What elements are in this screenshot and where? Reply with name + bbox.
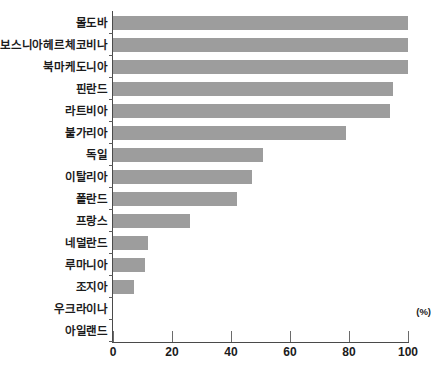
x-axis-tick	[172, 331, 173, 342]
chart-row: 폴란드	[113, 188, 408, 210]
x-axis-tick-label: 20	[149, 345, 195, 359]
chart-row: 불가리아	[113, 122, 408, 144]
bar	[113, 258, 145, 272]
bar	[113, 126, 346, 140]
plot-area: 몰도바보스니아헤르체코비나북마케도니아핀란드라트비아불가리아독일이탈리아폴란드프…	[113, 12, 408, 342]
chart-row: 북마케도니아	[113, 56, 408, 78]
bar	[113, 16, 408, 30]
category-label: 몰도바	[76, 12, 108, 34]
x-axis-tick	[290, 331, 291, 342]
category-label: 네덜란드	[65, 232, 108, 254]
x-axis-tick	[408, 331, 409, 342]
category-label: 이탈리아	[65, 166, 108, 188]
bar	[113, 104, 390, 118]
x-axis-tick-label: 0	[90, 345, 136, 359]
category-label: 프랑스	[76, 210, 108, 232]
category-label: 불가리아	[65, 122, 108, 144]
bar	[113, 38, 408, 52]
category-label: 조지아	[76, 276, 108, 298]
bar	[113, 214, 190, 228]
x-axis-line	[112, 342, 409, 343]
chart-row: 조지아	[113, 276, 408, 298]
category-label: 라트비아	[65, 100, 108, 122]
chart-row: 몰도바	[113, 12, 408, 34]
chart-row: 보스니아헤르체코비나	[113, 34, 408, 56]
bar	[113, 60, 408, 74]
bar	[113, 236, 148, 250]
chart-row: 독일	[113, 144, 408, 166]
chart-row: 이탈리아	[113, 166, 408, 188]
chart-row: 아일랜드	[113, 320, 408, 342]
chart-row: 핀란드	[113, 78, 408, 100]
category-label: 우크라이나	[54, 298, 108, 320]
category-label: 북마케도니아	[43, 56, 108, 78]
chart-row: 네덜란드	[113, 232, 408, 254]
category-label: 폴란드	[76, 188, 108, 210]
bar-chart-figure: 몰도바보스니아헤르체코비나북마케도니아핀란드라트비아불가리아독일이탈리아폴란드프…	[0, 0, 431, 391]
bar	[113, 170, 252, 184]
x-axis-tick-label: 100	[385, 345, 431, 359]
bar	[113, 82, 393, 96]
x-axis-unit-label: (%)	[416, 306, 431, 317]
x-axis-tick	[113, 331, 114, 342]
category-label: 아일랜드	[65, 320, 108, 342]
chart-row: 라트비아	[113, 100, 408, 122]
bar	[113, 148, 263, 162]
chart-row: 루마니아	[113, 254, 408, 276]
category-label: 루마니아	[65, 254, 108, 276]
category-label: 핀란드	[76, 78, 108, 100]
x-axis-tick-label: 60	[267, 345, 313, 359]
x-axis-tick-label: 80	[326, 345, 372, 359]
bar	[113, 192, 237, 206]
category-label: 독일	[86, 144, 108, 166]
category-label: 보스니아헤르체코비나	[0, 34, 108, 56]
x-axis-tick-label: 40	[208, 345, 254, 359]
x-axis-tick	[231, 331, 232, 342]
bar	[113, 280, 134, 294]
chart-row: 프랑스	[113, 210, 408, 232]
x-axis-tick	[349, 331, 350, 342]
chart-row: 우크라이나	[113, 298, 408, 320]
